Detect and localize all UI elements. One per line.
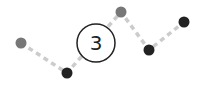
numbered-line-illustration: 3: [0, 0, 205, 87]
data-point-3: [116, 7, 127, 18]
data-point-5: [179, 17, 190, 28]
data-point-1: [16, 38, 27, 49]
data-point-4: [144, 45, 155, 56]
line-chart-icon: 3: [0, 0, 205, 87]
number-badge-label: 3: [90, 31, 103, 55]
data-point-2: [62, 68, 73, 79]
